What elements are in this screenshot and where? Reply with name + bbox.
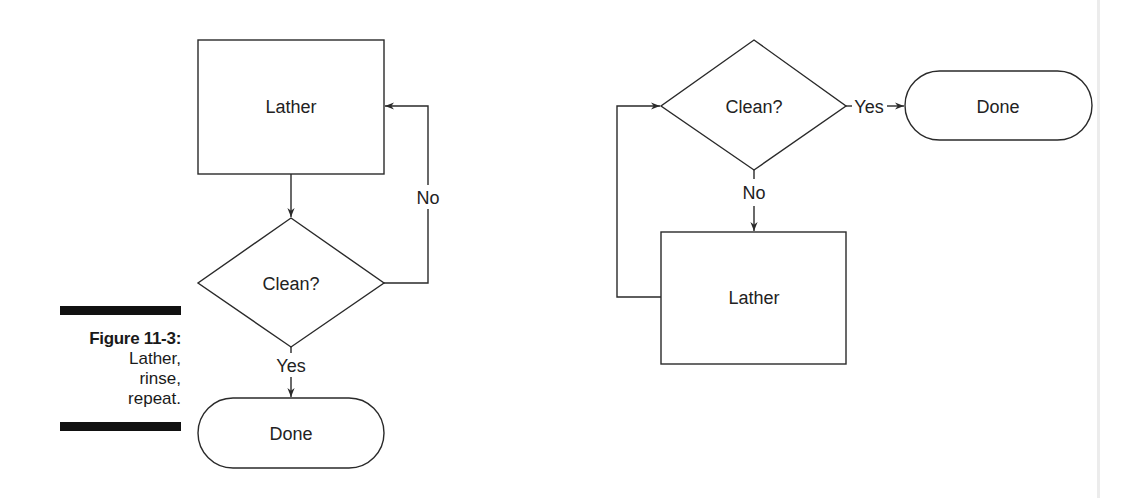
- figure-number: Figure 11-3:: [40, 329, 181, 349]
- left-clean-label: Clean?: [262, 274, 319, 294]
- right-done-label: Done: [976, 97, 1019, 117]
- left-lather-label: Lather: [265, 97, 316, 117]
- figure-caption: Figure 11-3: Lather, rinse, repeat.: [40, 306, 181, 431]
- right-flowchart: [617, 40, 1092, 364]
- left-done-label: Done: [269, 424, 312, 444]
- right-yes-label: Yes: [854, 97, 883, 117]
- left-no-label: No: [416, 188, 439, 208]
- left-yes-label: Yes: [276, 356, 305, 376]
- caption-line-2: rinse,: [40, 369, 181, 389]
- right-clean-label: Clean?: [725, 97, 782, 117]
- caption-bottom-rule: [60, 422, 181, 431]
- caption-line-3: repeat.: [40, 389, 181, 409]
- right-loop-back-arrow: [617, 106, 661, 297]
- right-lather-label: Lather: [728, 288, 779, 308]
- caption-top-rule: [60, 306, 181, 315]
- right-no-label: No: [742, 183, 765, 203]
- caption-line-1: Lather,: [40, 349, 181, 369]
